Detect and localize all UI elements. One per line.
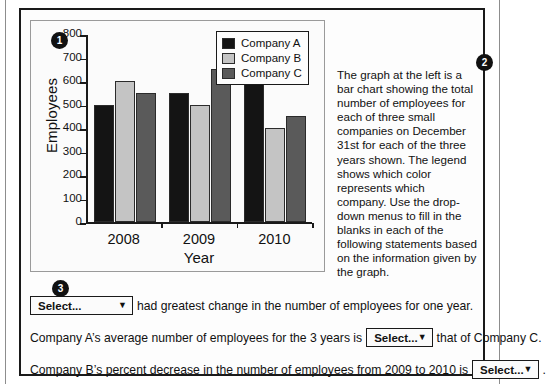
statement-3: Company B’s percent decrease in the numb…	[30, 360, 478, 379]
statement-3-suffix-text: .	[543, 363, 546, 377]
y-axis-line	[86, 35, 88, 223]
y-tick-label: 200	[63, 168, 82, 180]
bar-company-a-2009	[169, 93, 189, 222]
statement-3-select-value: Select...	[480, 364, 523, 376]
statement-1-select-value: Select...	[38, 300, 81, 312]
page-frame-right-rule	[499, 0, 500, 384]
x-tick-mark	[161, 223, 163, 228]
y-axis-title: Employees	[43, 51, 60, 181]
x-axis-title: Year	[86, 249, 312, 266]
legend-item-company-a: Company A	[222, 36, 302, 50]
statement-1-suffix-text: had greatest change in the number of emp…	[137, 299, 473, 313]
statement-2-select[interactable]: Select...▼	[366, 328, 432, 347]
statement-2-prefix-text: Company A’s average number of employees …	[30, 331, 362, 345]
y-tick-label: 700	[63, 51, 82, 63]
y-tick-label: 400	[63, 121, 82, 133]
x-tick-label-2009: 2009	[161, 231, 236, 247]
page-frame-left-rule	[5, 0, 6, 384]
chevron-down-icon: ▼	[418, 333, 427, 342]
x-tick-mark	[312, 223, 314, 228]
legend-label: Company C	[241, 67, 302, 79]
x-tick-mark	[237, 223, 239, 228]
statement-2-select-value: Select...	[374, 332, 417, 344]
statement-2: Company A’s average number of employees …	[30, 328, 478, 347]
chart-legend: Company ACompany BCompany C	[216, 31, 309, 85]
statement-1: Select...▼had greatest change in the num…	[30, 296, 478, 315]
question-panel: 1 2 3 Employees 010020030040050060070080…	[19, 8, 485, 376]
legend-item-company-b: Company B	[222, 51, 302, 65]
statement-1-select[interactable]: Select...▼	[30, 296, 133, 315]
bar-company-b-2008	[115, 81, 135, 222]
legend-item-company-c: Company C	[222, 66, 302, 80]
callout-badge-3: 3	[52, 280, 69, 297]
y-tick-label: 100	[63, 192, 82, 204]
chevron-down-icon: ▼	[524, 365, 533, 374]
legend-label: Company B	[241, 52, 301, 64]
bar-company-c-2008	[136, 93, 156, 222]
statements-list: Select...▼had greatest change in the num…	[30, 296, 478, 384]
statement-3-select[interactable]: Select...▼	[472, 360, 538, 379]
x-axis-line	[86, 222, 312, 224]
legend-label: Company A	[241, 37, 300, 49]
statement-3-prefix-text: Company B’s percent decrease in the numb…	[30, 363, 468, 377]
statement-2-suffix-text: that of Company C.	[437, 331, 542, 345]
bar-company-a-2008	[94, 105, 114, 223]
y-tick-label: 500	[63, 98, 82, 110]
legend-swatch-icon	[222, 68, 235, 79]
chevron-down-icon: ▼	[118, 301, 127, 310]
bar-company-b-2010	[265, 128, 285, 222]
x-tick-label-2008: 2008	[86, 231, 161, 247]
y-tick-label: 600	[63, 74, 82, 86]
instructions-text: The graph at the left is a bar chart sho…	[337, 68, 477, 279]
bar-chart-panel: Employees 0100200300400500600700800 2008…	[30, 20, 325, 272]
y-tick-label: 0	[76, 215, 82, 227]
bar-company-b-2009	[190, 105, 210, 223]
bar-company-c-2010	[286, 116, 306, 222]
callout-badge-2: 2	[476, 54, 493, 71]
y-tick-label: 300	[63, 145, 82, 157]
x-tick-label-2010: 2010	[237, 231, 312, 247]
legend-swatch-icon	[222, 38, 235, 49]
callout-badge-1: 1	[51, 32, 68, 49]
plot-area: Employees 0100200300400500600700800 2008…	[31, 21, 324, 271]
bar-company-a-2010	[244, 81, 264, 222]
legend-swatch-icon	[222, 53, 235, 64]
bar-company-c-2009	[211, 69, 231, 222]
